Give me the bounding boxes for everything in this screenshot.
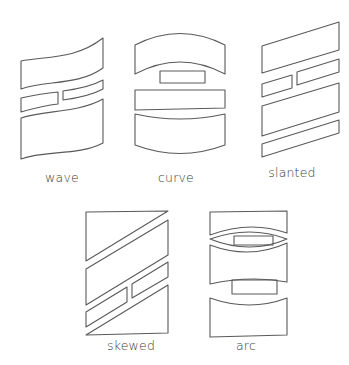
curve-bottom-panel — [135, 114, 225, 154]
skewed-middle-right-box — [132, 262, 168, 298]
slanted-middle-left-box — [262, 75, 292, 97]
wave-top-panel — [21, 38, 103, 89]
curve-middle-panel — [135, 90, 225, 110]
slanted-middle-right-box — [297, 59, 339, 85]
figure-label-wave: wave — [45, 170, 79, 185]
skewed-top-triangle-panel — [86, 211, 168, 261]
text-warp-styles-diagram: wavecurveslantedskewedarc — [0, 0, 349, 365]
figure-curve: curve — [135, 34, 225, 186]
curve-inner-box — [160, 71, 205, 83]
arc-bottom-panel — [210, 298, 287, 337]
slanted-bottom-panel — [262, 120, 339, 157]
arc-second-inner-box — [232, 280, 277, 294]
wave-bottom-panel — [21, 99, 103, 159]
curve-top-panel — [135, 34, 225, 75]
wave-middle-right-box — [63, 80, 103, 100]
figure-skewed: skewed — [86, 211, 168, 353]
figure-slanted: slanted — [262, 22, 339, 180]
slanted-third-panel — [262, 83, 339, 136]
wave-middle-left-box — [21, 92, 58, 112]
figure-label-slanted: slanted — [268, 165, 316, 180]
arc-first-inner-box — [234, 236, 273, 245]
figures-group: wavecurveslantedskewedarc — [21, 22, 339, 353]
figure-label-skewed: skewed — [107, 338, 155, 353]
arc-middle-panel — [210, 243, 287, 284]
figure-arc: arc — [210, 211, 287, 353]
figure-label-arc: arc — [236, 338, 256, 353]
slanted-top-panel — [262, 22, 339, 73]
figure-wave: wave — [21, 38, 103, 185]
arc-top-panel — [210, 211, 287, 235]
figure-label-curve: curve — [158, 170, 194, 185]
